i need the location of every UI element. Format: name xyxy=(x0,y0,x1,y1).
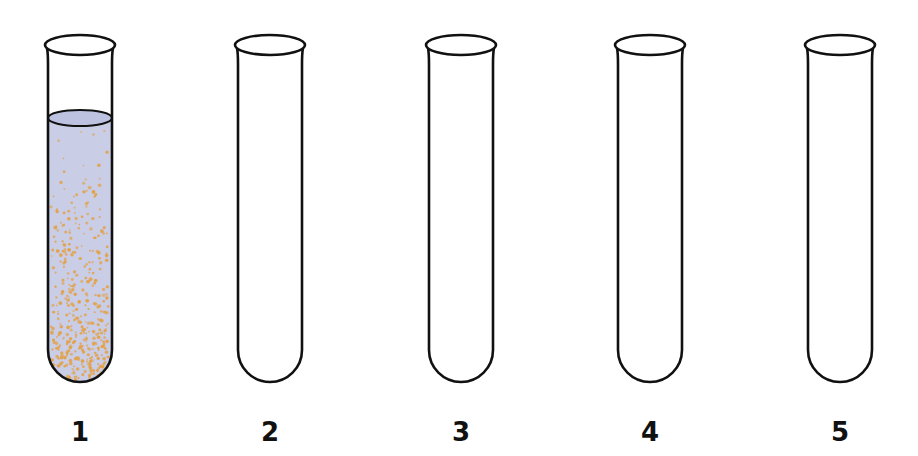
test-tube-1 xyxy=(45,35,115,382)
test-tube-diagram: 1 2 3 4 5 xyxy=(0,0,918,456)
tube-label-5: 5 xyxy=(820,415,860,449)
tube-rim xyxy=(615,35,685,55)
tube-label-3: 3 xyxy=(441,415,481,449)
tubes-canvas xyxy=(0,0,918,456)
test-tube-2 xyxy=(235,35,305,382)
tube-rim xyxy=(805,35,875,55)
tube-body xyxy=(428,48,494,382)
tube-body xyxy=(237,48,303,382)
tube-label-2: 2 xyxy=(250,415,290,449)
tube-label-1: 1 xyxy=(60,415,100,449)
tube-rim xyxy=(45,35,115,55)
tube-label-4: 4 xyxy=(630,415,670,449)
tube-body xyxy=(617,48,683,382)
liquid-surface xyxy=(48,110,112,126)
test-tube-5 xyxy=(805,35,875,382)
tube-rim xyxy=(235,35,305,55)
test-tube-4 xyxy=(615,35,685,382)
tube-rim xyxy=(426,35,496,55)
tube-body xyxy=(807,48,873,382)
test-tube-3 xyxy=(426,35,496,382)
